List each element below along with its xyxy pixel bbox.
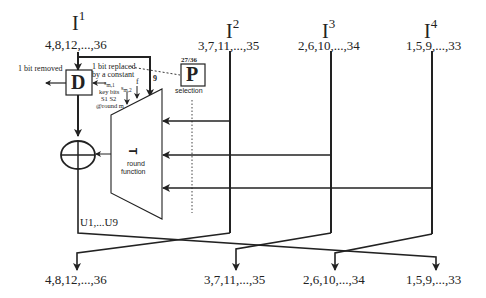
- round-function-label-line1: round: [127, 160, 145, 167]
- input-sup: 2: [233, 16, 240, 31]
- input-name: I: [72, 12, 79, 34]
- p-box-letter: P: [186, 63, 198, 86]
- output-bits-4: 1,5,9,...,33: [406, 272, 461, 288]
- sm2-label: sm,2: [121, 84, 132, 94]
- round-function-symbol: T: [127, 148, 139, 155]
- p-caption: selection: [175, 87, 203, 94]
- input-bits-i4: 1,5,9,...,33: [406, 38, 461, 54]
- round-function-label-line2: function: [121, 168, 146, 175]
- xor-icon: [61, 141, 95, 169]
- output-bits-3: 2,6,10,...,34: [303, 272, 365, 288]
- input-sup: 1: [79, 8, 86, 23]
- key-bits-line2: S1 S2: [101, 95, 116, 102]
- input-sup: 4: [431, 16, 438, 31]
- replaced-label-line2: by a constant: [92, 70, 134, 79]
- key-bits-line1: key bits: [99, 88, 119, 95]
- input-bits-i3: 2,6,10,...,34: [298, 38, 360, 54]
- bit-removed-label: 1 bit removed: [18, 64, 62, 73]
- input-sup: 3: [329, 16, 336, 31]
- input-label-i1: I1: [72, 12, 85, 35]
- output-bits-2: 3,7,11,...,35: [204, 272, 265, 288]
- d-box-letter: D: [71, 71, 85, 94]
- f-label: f: [136, 77, 139, 86]
- sm2-sub: m,2: [124, 87, 132, 93]
- bit-count-nine: 9: [153, 74, 157, 83]
- input-bits-i1: 4,8,12,...,36: [45, 37, 107, 53]
- input-bits-i2: 3,7,11,...,35: [198, 38, 259, 54]
- u-range-label: U1,...U9: [80, 216, 118, 228]
- key-bits-line3: @round m: [96, 102, 124, 109]
- output-bits-1: 4,8,12,...,36: [45, 272, 107, 288]
